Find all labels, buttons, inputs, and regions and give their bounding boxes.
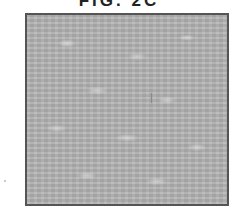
surface-mark bbox=[151, 93, 152, 103]
surface-image-panel bbox=[25, 13, 229, 206]
figure-label: FIG. 2C bbox=[0, 0, 238, 11]
scan-speck bbox=[4, 180, 6, 182]
